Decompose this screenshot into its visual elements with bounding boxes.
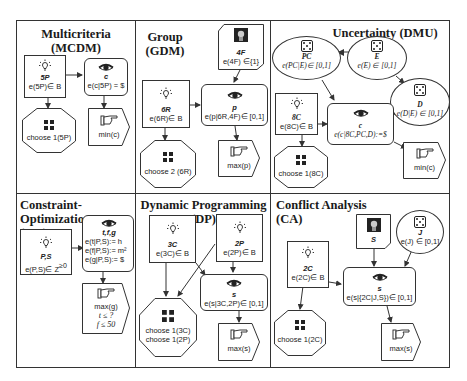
node-label: s xyxy=(344,284,415,293)
node-expression: e(E) ∈ [0,1] xyxy=(348,61,406,70)
node-expression: e(2P)∈ B xyxy=(217,248,262,257)
node-label: c xyxy=(85,72,127,81)
node-label: 2P xyxy=(217,239,262,248)
choice-node-6r[interactable]: choose 2 (6R) xyxy=(140,140,196,188)
agent-node-4f[interactable]: 4F e(4F) ∈{1} xyxy=(218,24,264,70)
node-label: 3C xyxy=(150,240,195,249)
lightbulb-icon xyxy=(301,246,315,260)
node-label: 5P xyxy=(25,73,65,82)
decision-node-2p[interactable]: 2P e(2P)∈ B xyxy=(216,214,263,262)
node-label: S xyxy=(356,235,391,244)
decision-node-ps[interactable]: P,S e(P,S)∈ Z≥0 xyxy=(20,229,72,275)
divider xyxy=(270,20,271,368)
node-expression: e(f|P,S):= m² xyxy=(85,246,133,255)
node-expression: choose 1(3C) xyxy=(139,326,197,335)
node-expression: e(PC|E)∈ [0,1] xyxy=(273,61,340,70)
node-expression: e(s|{2C|J,S})∈ [0,1] xyxy=(344,293,415,302)
chance-node-j[interactable]: J e(J) ∈ [0,1] xyxy=(396,210,444,254)
four-arrows-icon xyxy=(163,152,173,162)
decision-node-5p[interactable]: 5P e(5P)∈ B xyxy=(24,55,66,98)
title-line: Group xyxy=(140,30,190,44)
decision-node-3c[interactable]: 3C e(3C)∈ B xyxy=(149,215,196,263)
objective-node-g[interactable]: max(g) t ≤ ? f ≤ 50 xyxy=(82,283,130,334)
node-expression: max(g) xyxy=(82,302,130,311)
divider xyxy=(16,193,450,194)
node-expression: e(p|6R,4F)∈ [0,1] xyxy=(202,112,267,121)
chance-node-d[interactable]: D e(D|E) ∈ [0,1] xyxy=(390,78,450,126)
node-label: 4F xyxy=(218,48,264,57)
node-expression: e(5P)∈ B xyxy=(25,82,65,91)
node-label: J xyxy=(397,228,443,237)
choice-node-8c[interactable]: choose 1(8C) xyxy=(274,146,328,188)
face-icon xyxy=(367,218,381,232)
chance-node-e[interactable]: E e(E) ∈ [0,1] xyxy=(347,36,407,80)
node-label: 2C xyxy=(288,264,328,273)
node-label: E xyxy=(348,52,406,61)
node-label: P,S xyxy=(21,252,71,261)
choice-node-3c-2p[interactable]: choose 1(3C) choose 1(2P) xyxy=(139,298,197,357)
node-expression-superscript: ≥0 xyxy=(59,262,67,269)
node-expression: max(s) xyxy=(218,344,260,353)
node-expression: e(c|5P) = $ xyxy=(85,81,127,90)
objective-node-c[interactable]: min(c) xyxy=(403,142,446,179)
node-label: c xyxy=(328,121,393,130)
node-label: 6R xyxy=(143,105,189,114)
objective-node-p[interactable]: max(p) xyxy=(218,140,260,177)
pointing-hand-icon xyxy=(416,147,434,159)
lightbulb-icon xyxy=(166,222,180,236)
choice-node-2c[interactable]: choose 1(2C) xyxy=(274,310,326,356)
value-node-s[interactable]: s e(s|3C,2P)∈ [0,1] xyxy=(200,274,268,311)
decision-node-2c[interactable]: 2C e(2C)∈ B xyxy=(287,241,329,288)
node-expression: min(c) xyxy=(403,163,446,172)
decision-model-diagram: Multicriteria (MCDM) 5P e(5P)∈ B c e(c|5… xyxy=(0,0,467,381)
four-arrows-icon xyxy=(296,155,306,165)
four-arrows-icon xyxy=(44,120,54,130)
face-icon xyxy=(234,28,248,42)
value-node-s[interactable]: s e(s|{2C|J,S})∈ [0,1] xyxy=(343,267,416,306)
title-line: Multicriteria xyxy=(20,27,132,41)
panel-title-mcdm: Multicriteria (MCDM) xyxy=(20,27,132,55)
title-line: (MCDM) xyxy=(20,41,132,55)
objective-node-s[interactable]: max(s) xyxy=(218,323,260,361)
choice-node-5p[interactable]: choose 1(5P) xyxy=(22,108,76,153)
node-expression: choose 1(2C) xyxy=(274,335,326,344)
value-node-p[interactable]: p e(p|6R,4F)∈ [0,1] xyxy=(201,84,268,126)
lightbulb-icon xyxy=(38,59,52,73)
node-expression: choose 2 (6R) xyxy=(140,167,196,176)
node-expression: max(s) xyxy=(381,344,421,353)
dice-icon xyxy=(414,216,426,228)
panel-title-gdm: Group (GDM) xyxy=(140,30,190,58)
eye-icon xyxy=(101,219,117,228)
lightbulb-icon xyxy=(159,87,173,101)
pointing-hand-icon xyxy=(392,328,410,340)
node-expression: e(3C)∈ B xyxy=(150,249,195,258)
node-expression: min(c) xyxy=(88,130,130,139)
lightbulb-icon xyxy=(39,236,53,250)
decision-node-6r[interactable]: 6R e(6R)∈ B xyxy=(142,80,190,128)
four-arrows-icon xyxy=(295,320,305,330)
lightbulb-icon xyxy=(233,221,247,235)
eye-icon xyxy=(227,91,243,100)
node-expression: e(4F) ∈{1} xyxy=(218,57,264,66)
four-arrows-icon xyxy=(162,310,174,322)
value-node-tfg[interactable]: t,f,g e(t|P,S):= h e(f|P,S):= m² e(g|P,S… xyxy=(82,215,134,272)
node-expression: max(p) xyxy=(218,161,260,170)
node-expression: choose 1(8C) xyxy=(274,169,328,178)
node-expression: e(P,S)∈ Z xyxy=(25,265,59,274)
node-expression: e(c|8C,PC,D):=$ xyxy=(328,130,393,139)
title-line: (GDM) xyxy=(140,44,190,58)
chance-node-pc[interactable]: PC e(PC|E)∈ [0,1] xyxy=(272,36,341,80)
agent-node-s[interactable]: S xyxy=(356,214,391,249)
value-node-c[interactable]: c e(c|8C,PC,D):=$ xyxy=(327,103,394,145)
decision-node-8c[interactable]: 8C e(8C)∈ B xyxy=(275,93,318,135)
node-expression: e(2C)∈ B xyxy=(288,273,328,282)
pointing-hand-icon xyxy=(100,114,118,126)
node-label: PC xyxy=(273,52,340,61)
objective-node-s[interactable]: max(s) xyxy=(381,323,421,361)
pointing-hand-icon xyxy=(230,328,248,340)
objective-node-c[interactable]: min(c) xyxy=(88,108,130,146)
dice-icon xyxy=(414,84,426,96)
pointing-hand-icon xyxy=(230,145,248,157)
value-node-c[interactable]: c e(c|5P) = $ xyxy=(84,58,128,96)
divider xyxy=(135,20,136,368)
